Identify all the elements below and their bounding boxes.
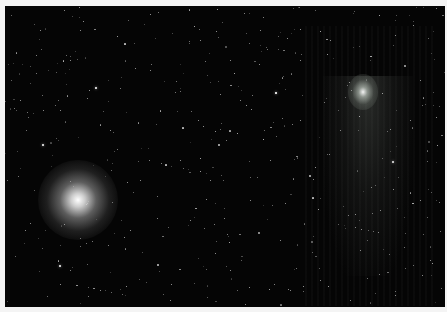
faint-star <box>30 66 31 67</box>
faint-star <box>176 81 177 82</box>
faint-star <box>226 140 227 141</box>
faint-star <box>108 245 109 246</box>
faint-star <box>203 126 204 127</box>
faint-star <box>51 166 52 167</box>
faint-star <box>77 59 78 60</box>
faint-star <box>13 63 14 64</box>
faint-star <box>264 130 265 131</box>
comet-coma <box>348 74 378 110</box>
faint-star <box>127 182 128 183</box>
faint-star <box>295 52 296 53</box>
faint-star <box>70 270 71 271</box>
faint-star <box>42 248 43 249</box>
faint-star <box>125 248 126 249</box>
faint-star <box>26 130 27 131</box>
faint-star <box>291 73 292 74</box>
faint-star <box>67 95 68 96</box>
faint-star <box>114 233 115 234</box>
faint-star <box>157 196 158 197</box>
faint-star <box>146 282 147 283</box>
star <box>290 290 291 291</box>
faint-star <box>10 108 11 109</box>
faint-star <box>34 190 35 191</box>
faint-star <box>175 92 176 93</box>
faint-star <box>396 15 397 16</box>
faint-star <box>194 26 195 27</box>
star <box>218 144 219 145</box>
faint-star <box>226 266 227 267</box>
faint-star <box>63 60 64 61</box>
faint-star <box>245 304 246 305</box>
star <box>157 264 158 265</box>
faint-star <box>209 53 210 54</box>
faint-star <box>442 15 443 16</box>
faint-star <box>65 121 66 122</box>
faint-star <box>52 155 53 156</box>
faint-star <box>126 286 127 287</box>
faint-star <box>395 20 396 21</box>
star <box>59 265 61 267</box>
faint-star <box>252 95 253 96</box>
faint-star <box>241 90 242 91</box>
star <box>110 130 111 131</box>
faint-star <box>94 29 95 30</box>
faint-star <box>205 61 206 62</box>
faint-star <box>151 64 152 65</box>
star <box>280 240 281 241</box>
star <box>210 180 211 181</box>
faint-star <box>177 111 178 112</box>
faint-star <box>126 112 127 113</box>
star <box>40 30 41 31</box>
star <box>100 290 101 291</box>
faint-star <box>303 286 304 287</box>
faint-star <box>214 224 215 225</box>
faint-star <box>172 33 173 34</box>
star <box>250 200 251 201</box>
faint-star <box>45 28 46 29</box>
faint-star <box>423 7 424 8</box>
faint-star <box>36 73 37 74</box>
faint-star <box>260 45 261 46</box>
faint-star <box>120 88 121 89</box>
faint-star <box>160 111 161 112</box>
faint-star <box>88 287 89 288</box>
faint-star <box>142 252 143 253</box>
star <box>200 40 201 41</box>
faint-star <box>189 9 190 10</box>
faint-star <box>144 24 145 25</box>
faint-star <box>165 164 166 165</box>
faint-star <box>206 173 207 174</box>
faint-star <box>210 82 211 83</box>
faint-star <box>239 234 240 235</box>
faint-star <box>200 158 201 159</box>
faint-star <box>241 256 242 257</box>
faint-star <box>57 63 58 64</box>
faint-star <box>92 241 93 242</box>
faint-star <box>121 220 122 221</box>
faint-star <box>19 73 20 74</box>
faint-star <box>315 10 316 11</box>
faint-star <box>211 139 212 140</box>
star <box>182 127 183 128</box>
faint-star <box>22 64 23 65</box>
faint-star <box>39 39 40 40</box>
faint-star <box>134 43 135 44</box>
star <box>95 87 97 89</box>
faint-star <box>86 243 87 244</box>
faint-star <box>5 153 6 154</box>
faint-star <box>220 129 221 130</box>
faint-star <box>297 157 298 158</box>
faint-star <box>221 175 222 176</box>
faint-star <box>251 109 252 110</box>
faint-star <box>111 292 112 293</box>
faint-star <box>17 151 18 152</box>
faint-star <box>36 55 37 56</box>
star <box>25 230 26 231</box>
faint-star <box>80 303 81 304</box>
night-sky-image <box>5 6 445 307</box>
faint-star <box>168 227 169 228</box>
faint-star <box>124 237 125 238</box>
faint-star <box>188 225 189 226</box>
faint-star <box>150 14 151 15</box>
faint-star <box>441 135 442 136</box>
